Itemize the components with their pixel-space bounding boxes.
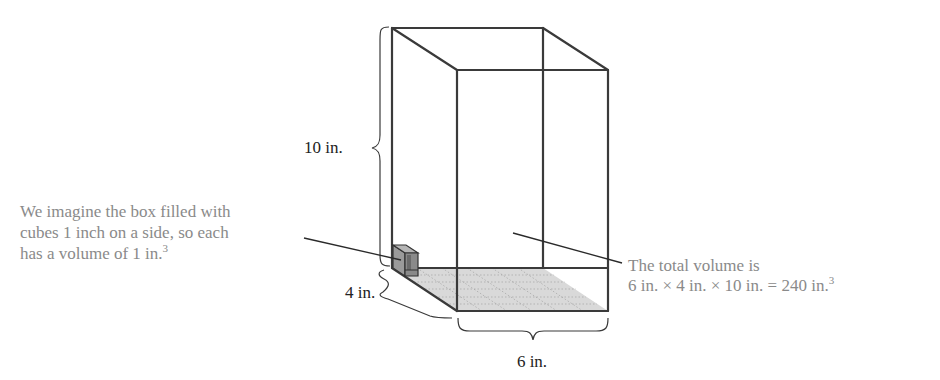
depth-label: 4 in. xyxy=(345,283,375,302)
box-volume-diagram: 10 in. 4 in. 6 in. We imagine the box fi… xyxy=(0,0,940,380)
total-volume-annotation-line-2: 6 in. × 4 in. × 10 in. = 240 in.3 xyxy=(628,274,835,295)
total-volume-formula: 6 in. × 4 in. × 10 in. = 240 in. xyxy=(628,276,829,295)
unit-cube-pointer xyxy=(304,238,401,260)
unit-cube-annotation-line-1: We imagine the box filled with xyxy=(20,202,231,221)
height-label: 10 in. xyxy=(304,138,343,157)
superscript-three: 3 xyxy=(829,274,835,286)
total-volume-annotation-line-1: The total volume is xyxy=(628,256,760,275)
total-volume-pointer xyxy=(513,233,622,263)
width-brace xyxy=(458,318,608,340)
unit-cube-annotation: We imagine the box filled with cubes 1 i… xyxy=(20,202,231,263)
unit-cube-annotation-line-3-text: has a volume of 1 in. xyxy=(20,244,163,263)
total-volume-annotation: The total volume is 6 in. × 4 in. × 10 i… xyxy=(628,256,835,295)
unit-cube-annotation-line-2: cubes 1 inch on a side, so each xyxy=(20,223,229,242)
box-outline xyxy=(392,28,608,311)
height-brace xyxy=(372,27,390,266)
superscript-three: 3 xyxy=(163,242,169,254)
width-label: 6 in. xyxy=(517,352,547,371)
unit-cube-annotation-line-3: has a volume of 1 in.3 xyxy=(20,242,169,263)
